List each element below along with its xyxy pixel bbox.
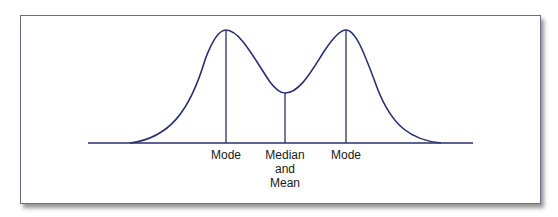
mode-label-left: Mode [206,148,246,162]
median-label-line1: Median [260,148,310,162]
median-label-line2: and [260,162,310,176]
median-mean-label: Median and Mean [260,148,310,190]
mode-label-right: Mode [326,148,366,162]
median-label-line3: Mean [260,176,310,190]
